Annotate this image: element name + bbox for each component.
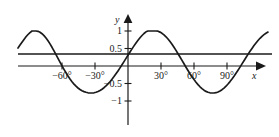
sine-curve: [18, 31, 268, 93]
x-tick-label-minus60: −60°: [52, 71, 72, 81]
y-tick-label-0-5: 0.5: [110, 44, 123, 54]
y-tick-label-minus0-5: −0.5: [104, 79, 122, 89]
y-tick-label-1: 1: [117, 26, 122, 36]
x-axis-arrow-icon: [256, 62, 266, 71]
x-tick-label-90: 90°: [220, 71, 234, 81]
x-axis-label: x: [252, 71, 256, 81]
plot-canvas: [0, 0, 279, 137]
x-tick-label-minus30: −30°: [85, 71, 105, 81]
y-axis-arrow-icon: [124, 14, 133, 23]
x-tick-label-30: 30°: [154, 71, 168, 81]
y-tick-label-minus1: −1: [111, 96, 122, 106]
y-axis-label: y: [115, 15, 119, 25]
x-tick-label-60: 60°: [187, 71, 201, 81]
trig-graph-figure: −60° −30° 30° 60° 90° 1 0.5 −0.5 −1 y x: [0, 0, 279, 137]
